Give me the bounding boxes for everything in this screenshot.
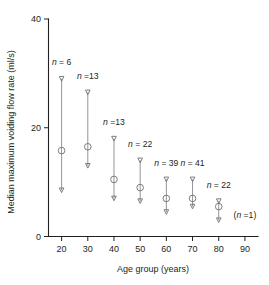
y-tick-group: 02040 [31,14,49,242]
axis-group [48,19,258,237]
n-count-label: n =13 [103,117,125,127]
x-axis-title: Age group (years) [117,264,189,274]
x-tick-label: 50 [135,244,145,254]
y-axis-title: Median maximum voiding flow rate (ml/s) [6,50,16,214]
n-count-label: n = 39 [154,158,178,168]
data-point-group [215,199,222,223]
x-tick-group: 2030405060708090 [57,237,250,254]
data-point-group [163,177,170,214]
x-tick-label: 60 [161,244,171,254]
n-annotation-layer: n = 6n =13n =13n = 22n = 39n = 41n = 22(… [52,57,256,220]
data-point-group [137,158,144,203]
x-tick-label: 20 [57,244,67,254]
n-count-label: n = 22 [128,139,152,149]
x-tick-label: 80 [214,244,224,254]
chart-figure: 02040 2030405060708090 n = 6n =13n =13n … [0,0,269,285]
data-point-group [111,136,118,200]
y-tick-label: 0 [36,232,41,242]
y-tick-label: 40 [31,14,41,24]
n-count-label: n =13 [77,71,99,81]
x-tick-label: 70 [188,244,198,254]
data-point-group [58,77,65,193]
x-tick-label: 30 [83,244,93,254]
n-count-label: (n =1) [234,210,257,220]
n-count-label: n = 22 [207,180,231,190]
data-series-layer [58,77,222,223]
chart-canvas: 02040 2030405060708090 n = 6n =13n =13n … [0,0,269,285]
n-count-label: n = 41 [180,158,204,168]
x-tick-label: 40 [109,244,119,254]
data-point-group [189,177,196,209]
data-point-group [84,90,91,168]
y-tick-label: 20 [31,123,41,133]
n-count-label: n = 6 [52,57,72,67]
x-tick-label: 90 [240,244,250,254]
